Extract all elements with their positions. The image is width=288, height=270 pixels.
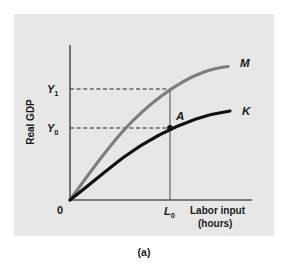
production-function-chart: A M K Y1 Y0 L0 0 Labor input (hours) Rea… xyxy=(0,0,288,270)
x-axis-title-units: (hours) xyxy=(198,218,232,229)
x-axis-title: Labor input xyxy=(190,205,246,216)
y-tick-label-y0: Y0 xyxy=(47,122,59,137)
point-a-label: A xyxy=(175,110,184,122)
x-tick-label-l0: L0 xyxy=(164,205,175,220)
point-a-marker xyxy=(167,125,173,131)
figure-caption: (a) xyxy=(0,246,288,258)
y-tick-label-y1: Y1 xyxy=(47,83,59,98)
curve-label-m: M xyxy=(240,57,250,69)
origin-label: 0 xyxy=(57,204,63,216)
y1-subscript: 1 xyxy=(54,89,58,98)
l0-subscript: 0 xyxy=(171,211,175,220)
y-axis-title: Real GDP xyxy=(25,99,36,145)
figure-panel-a: A M K Y1 Y0 L0 0 Labor input (hours) Rea… xyxy=(0,0,288,270)
curve-k xyxy=(70,111,230,200)
curve-label-k: K xyxy=(242,105,251,117)
y0-subscript: 0 xyxy=(54,128,58,137)
